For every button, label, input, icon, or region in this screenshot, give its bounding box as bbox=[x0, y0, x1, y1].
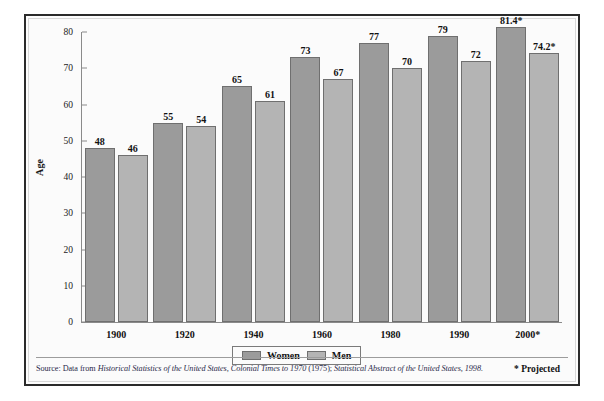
bar-group: 65611940 bbox=[219, 32, 288, 322]
bar-men-2000: 74.2* bbox=[529, 53, 559, 322]
bar-value-label: 70 bbox=[402, 56, 412, 67]
x-axis-tick-label: 1900 bbox=[106, 329, 126, 340]
bar-group: 77701980 bbox=[356, 32, 425, 322]
bar-value-label: 67 bbox=[333, 67, 343, 78]
bar-women-1960: 73 bbox=[290, 57, 320, 322]
x-axis-tick-label: 1960 bbox=[312, 329, 332, 340]
chart-frame: Age 01020304050607080 484619005554192065… bbox=[24, 14, 580, 386]
bar-women-1940: 65 bbox=[222, 86, 252, 322]
bar-group: 73671960 bbox=[288, 32, 357, 322]
bar-value-label: 72 bbox=[471, 49, 481, 60]
legend-swatch-women-icon bbox=[242, 351, 261, 360]
bar-group: 55541920 bbox=[151, 32, 220, 322]
bar-value-label: 65 bbox=[232, 74, 242, 85]
bar-group: 48461900 bbox=[82, 32, 151, 322]
legend-item-men: Men bbox=[307, 350, 351, 361]
y-axis-tick-label: 70 bbox=[64, 63, 83, 73]
bar-women-1920: 55 bbox=[153, 123, 183, 322]
y-axis-tick-label: 30 bbox=[64, 208, 83, 218]
bar-women-2000: 81.4* bbox=[496, 27, 526, 322]
x-axis-tick-label: 2000* bbox=[515, 329, 540, 340]
bar-value-label: 55 bbox=[163, 111, 173, 122]
y-axis-label: Age bbox=[34, 159, 45, 176]
source-title-1: Historical Statistics of the United Stat… bbox=[98, 364, 307, 373]
bar-value-label: 81.4* bbox=[500, 15, 523, 26]
bar-value-label: 54 bbox=[196, 114, 206, 125]
source-title-2: Statistical Abstract of the United State… bbox=[334, 364, 483, 373]
y-axis-tick-label: 50 bbox=[64, 136, 83, 146]
bar-group: 79721990 bbox=[425, 32, 494, 322]
bar-value-label: 48 bbox=[95, 136, 105, 147]
legend-label-men: Men bbox=[332, 350, 351, 361]
legend-swatch-men-icon bbox=[307, 351, 326, 360]
source-note: Source: Data from Historical Statistics … bbox=[36, 364, 568, 373]
figure-root: Age 01020304050607080 484619005554192065… bbox=[0, 0, 604, 401]
bar-value-label: 46 bbox=[128, 143, 138, 154]
source-prefix: Source: Data from bbox=[36, 364, 98, 373]
bar-value-label: 61 bbox=[265, 89, 275, 100]
x-axis-tick-label: 1940 bbox=[243, 329, 263, 340]
legend-item-women: Women bbox=[242, 350, 300, 361]
bar-value-label: 74.2* bbox=[533, 41, 556, 52]
bar-men-1980: 70 bbox=[392, 68, 422, 322]
x-axis-tick-label: 1920 bbox=[175, 329, 195, 340]
x-axis-tick-label: 1980 bbox=[381, 329, 401, 340]
bar-men-1920: 54 bbox=[186, 126, 216, 322]
y-axis-tick-label: 40 bbox=[64, 172, 83, 182]
chart-legend: Women Men bbox=[232, 346, 361, 365]
bar-women-1990: 79 bbox=[428, 36, 458, 322]
bar-value-label: 77 bbox=[369, 31, 379, 42]
bar-men-1990: 72 bbox=[461, 61, 491, 322]
bar-women-1900: 48 bbox=[85, 148, 115, 322]
bar-men-1960: 67 bbox=[323, 79, 353, 322]
y-axis-tick-label: 80 bbox=[64, 27, 83, 37]
bar-men-1900: 46 bbox=[118, 155, 148, 322]
x-axis-tick-label: 1990 bbox=[449, 329, 469, 340]
plot-area: 01020304050607080 4846190055541920656119… bbox=[81, 32, 562, 323]
bar-group: 81.4*74.2*2000* bbox=[493, 32, 562, 322]
bar-value-label: 79 bbox=[438, 24, 448, 35]
source-mid: (1975); bbox=[306, 364, 334, 373]
bar-men-1940: 61 bbox=[255, 101, 285, 322]
y-axis-tick-label: 60 bbox=[64, 100, 83, 110]
y-axis-tick-label: 0 bbox=[68, 317, 82, 327]
bar-value-label: 73 bbox=[300, 45, 310, 56]
y-axis-tick-label: 20 bbox=[64, 245, 83, 255]
source-divider bbox=[36, 357, 568, 358]
bar-women-1980: 77 bbox=[359, 43, 389, 322]
y-axis-tick-label: 10 bbox=[64, 281, 83, 291]
legend-label-women: Women bbox=[267, 350, 300, 361]
